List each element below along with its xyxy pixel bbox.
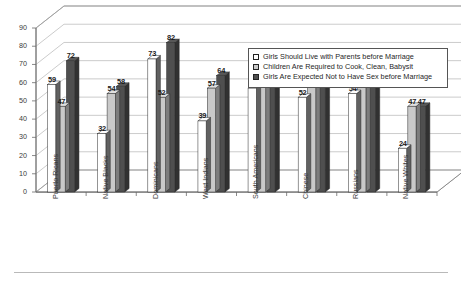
bar-value-label: 54 [108, 84, 116, 93]
bar-value-label: 24 [399, 139, 407, 148]
y-axis-tick-label: 50 [5, 96, 27, 105]
chart-canvas [0, 0, 461, 287]
x-axis-category-label: Puerto Ricans [51, 154, 60, 199]
x-axis-category-label: Russians [351, 169, 360, 199]
bar-value-label: 58 [117, 77, 125, 86]
y-axis-tick-label: 30 [5, 132, 27, 141]
bar-chart: 0102030405060708090594772Puerto Ricans32… [0, 0, 461, 287]
legend-label-series-3: Girls Are Expected Not to Have Sex befor… [263, 72, 432, 81]
legend-item: Girls Are Expected Not to Have Sex befor… [253, 72, 443, 81]
y-axis-tick-label: 90 [5, 23, 27, 32]
bar-value-label: 73 [148, 49, 156, 58]
legend-item: Children Are Required to Cook, Clean, Ba… [253, 62, 443, 71]
footer-divider [14, 272, 448, 273]
y-axis-tick-label: 40 [5, 114, 27, 123]
y-axis-tick-label: 80 [5, 41, 27, 50]
bar-value-label: 39 [198, 111, 206, 120]
bar-value-label: 52 [158, 88, 166, 97]
bar-value-label: 52 [299, 88, 307, 97]
bar-value-label: 59 [48, 75, 56, 84]
bar-value-label: 32 [98, 124, 106, 133]
bar-value-label: 82 [167, 33, 175, 42]
bar-value-label: 47 [418, 97, 426, 106]
legend-swatch-series-3 [253, 74, 259, 80]
bar-value-label: 64 [217, 66, 225, 75]
y-axis-tick-label: 0 [5, 187, 27, 196]
legend-label-series-2: Children Are Required to Cook, Clean, Ba… [263, 62, 413, 71]
legend-label-series-1: Girls Should Live with Parents before Ma… [263, 52, 414, 61]
y-axis-tick-label: 20 [5, 151, 27, 160]
chart-legend: Girls Should Live with Parents before Ma… [248, 48, 448, 88]
bar-value-label: 47 [57, 97, 65, 106]
x-axis-category-label: Dominicans [151, 161, 160, 199]
x-axis-category-label: West Indians [201, 158, 210, 199]
y-axis-tick-label: 60 [5, 78, 27, 87]
legend-item: Girls Should Live with Parents before Ma… [253, 52, 443, 61]
bar-value-label: 57 [208, 79, 216, 88]
y-axis-tick-label: 70 [5, 59, 27, 68]
bar-value-label: 47 [408, 97, 416, 106]
y-axis-tick-label: 10 [5, 169, 27, 178]
legend-swatch-series-1 [253, 54, 259, 60]
legend-swatch-series-2 [253, 64, 259, 70]
x-axis-category-label: Native Blacks [101, 155, 110, 199]
x-axis-category-label: Native Whites [401, 155, 410, 199]
x-axis-category-label: South Americans [251, 145, 260, 199]
bar-value-label: 72 [67, 51, 75, 60]
x-axis-category-label: Chinese [301, 173, 310, 199]
